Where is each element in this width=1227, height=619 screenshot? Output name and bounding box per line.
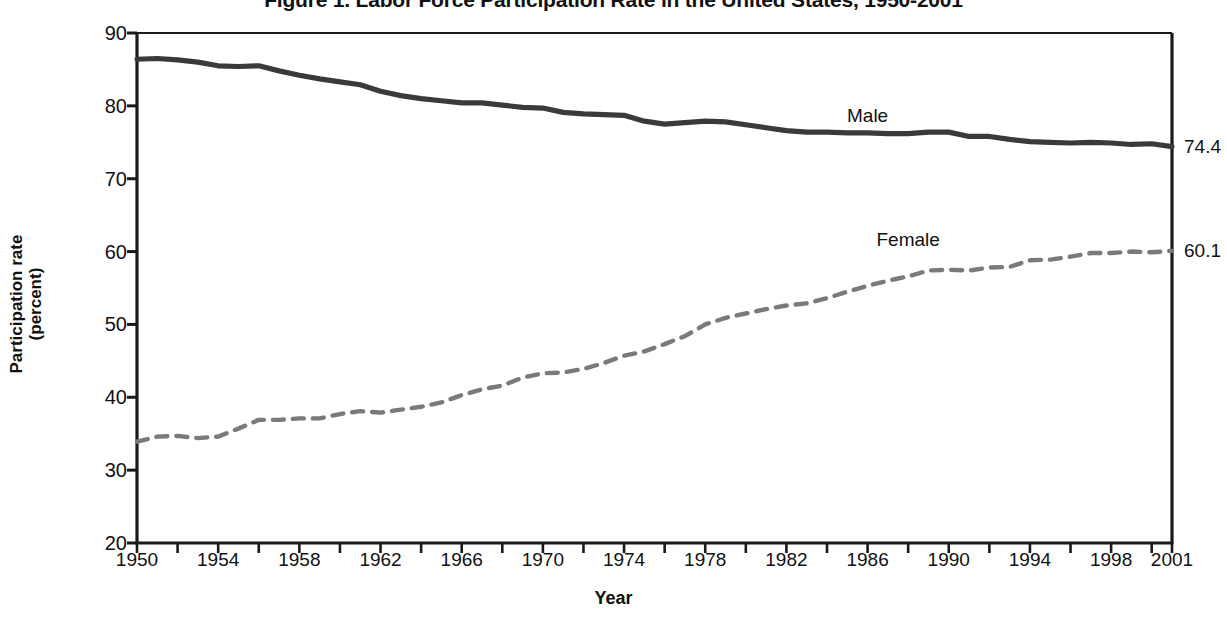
chart-figure: Figure 1. Labor Force Participation Rate… xyxy=(0,0,1227,619)
plot-canvas xyxy=(0,0,1227,619)
axis-frame xyxy=(137,33,1172,543)
series-line-male xyxy=(137,59,1172,147)
series-line-female xyxy=(137,251,1172,442)
